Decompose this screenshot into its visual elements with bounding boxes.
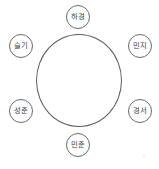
node-label-gyeongseo: 경서 xyxy=(133,107,146,114)
node-minji[interactable]: 민지 xyxy=(128,34,152,58)
node-seulgi[interactable]: 슬기 xyxy=(9,34,33,58)
node-label-seongjun: 성준 xyxy=(14,107,27,114)
scan-artifact-speck xyxy=(143,155,145,158)
main-circle xyxy=(36,34,122,127)
node-hagyeong[interactable]: 하경 xyxy=(66,5,90,29)
node-label-minjun: 민준 xyxy=(71,141,84,148)
node-gyeongseo[interactable]: 경서 xyxy=(128,99,152,123)
sociogram-diagram: 하경 슬기 민지 성준 경서 민준 xyxy=(0,0,159,169)
node-seongjun[interactable]: 성준 xyxy=(9,99,33,123)
node-label-hagyeong: 하경 xyxy=(71,13,84,20)
node-label-minji: 민지 xyxy=(133,42,146,49)
node-label-seulgi: 슬기 xyxy=(14,42,27,49)
node-minjun[interactable]: 민준 xyxy=(66,133,90,157)
